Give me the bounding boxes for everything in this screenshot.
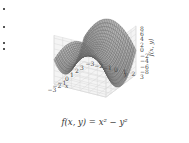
margin-mark-3 [3,42,5,44]
x-tick-label: 1 [70,71,74,78]
margin-mark-4 [3,48,5,50]
z-axis-label: f(x, y) [147,38,155,57]
margin-mark-2 [3,26,5,28]
x-axis-label: x [65,82,69,89]
x-tick-label: 0 [65,75,69,82]
y-tick-label: 2 [131,70,135,77]
y-axis-label: y [123,70,128,78]
z-tick-label: 8 [140,25,144,32]
y-tick-label: −1 [103,64,112,71]
x-tick-label: 3 [80,64,84,71]
y-tick-label: 0 [114,66,118,73]
saddle-surface-plot: −3−2−10123−3−2−10123−8−6−4−202468xyf(x, … [0,0,189,120]
margin-mark-1 [3,8,5,10]
x-tick-label: 2 [75,67,79,74]
chart-caption: f(x, y) = x² − y² [0,117,189,127]
